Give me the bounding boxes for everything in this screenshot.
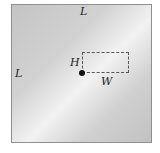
height-label: H [70,57,80,68]
anchor-point [79,70,85,76]
dashed-rectangle [82,52,129,73]
width-label: W [101,76,112,87]
left-side-label: L [15,68,22,79]
top-side-label: L [80,6,87,17]
